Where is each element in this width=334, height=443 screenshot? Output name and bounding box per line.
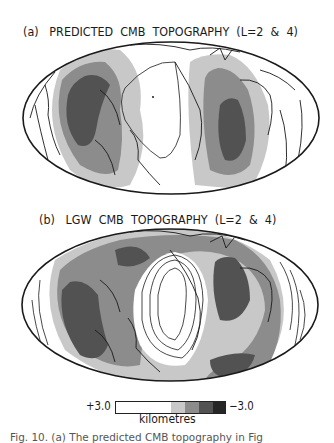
legend-max-label: +3.0 bbox=[86, 399, 111, 413]
panel-a-title-text: PREDICTED CMB TOPOGRAPHY (L=2 & 4) bbox=[49, 24, 297, 39]
map-predicted-cmb-topography bbox=[0, 38, 334, 198]
map-lgw-cmb-topography bbox=[0, 225, 334, 385]
panel-b-title: (b) LGW CMB TOPOGRAPHY (L=2 & 4) bbox=[32, 197, 319, 227]
colorbar-legend: +3.0 −3.0 kilometres bbox=[0, 399, 334, 427]
swatch-level-5 bbox=[213, 402, 225, 413]
figure-caption: Fig. 10. (a) The predicted CMB topograph… bbox=[10, 431, 263, 443]
panel-a-label: (a) bbox=[23, 24, 39, 39]
legend-min-label: −3.0 bbox=[229, 399, 254, 413]
swatch-level-4 bbox=[199, 402, 213, 413]
panel-a-title: (a) PREDICTED CMB TOPOGRAPHY (L=2 & 4) bbox=[16, 9, 303, 39]
legend-unit: kilometres bbox=[139, 412, 196, 426]
